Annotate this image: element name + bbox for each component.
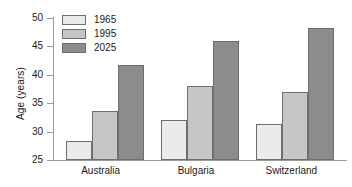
x-axis-line bbox=[53, 160, 347, 161]
bar-australia-2025 bbox=[118, 65, 144, 160]
x-label-switzerland: Switzerland bbox=[244, 165, 339, 177]
legend-item-1995: 1995 bbox=[62, 28, 116, 40]
legend-label-1965: 1965 bbox=[94, 15, 116, 25]
bar-bulgaria-2025 bbox=[213, 41, 239, 160]
legend-swatch-1995 bbox=[62, 29, 86, 39]
bar-australia-1995 bbox=[92, 111, 118, 160]
legend-label-1995: 1995 bbox=[94, 29, 116, 39]
bar-bulgaria-1965 bbox=[161, 120, 187, 160]
chart-legend: 196519952025 bbox=[62, 14, 116, 56]
legend-swatch-2025 bbox=[62, 43, 86, 53]
bar-switzerland-1995 bbox=[282, 92, 308, 160]
x-label-australia: Australia bbox=[53, 165, 148, 177]
y-tick-label: 25 bbox=[17, 155, 43, 165]
y-tick-label: 45 bbox=[17, 41, 43, 51]
bar-bulgaria-1995 bbox=[187, 86, 213, 160]
y-tick-mark bbox=[47, 160, 53, 161]
legend-item-2025: 2025 bbox=[62, 42, 116, 54]
bar-chart: Age (years) 253035404550 AustraliaBulgar… bbox=[0, 0, 352, 187]
legend-swatch-1965 bbox=[62, 15, 86, 25]
y-tick-label: 40 bbox=[17, 70, 43, 80]
bar-switzerland-2025 bbox=[308, 28, 334, 160]
x-label-bulgaria: Bulgaria bbox=[148, 165, 243, 177]
y-tick-label: 35 bbox=[17, 98, 43, 108]
y-tick-label: 30 bbox=[17, 127, 43, 137]
bar-australia-1965 bbox=[66, 141, 92, 160]
y-tick-label: 50 bbox=[17, 13, 43, 23]
legend-label-2025: 2025 bbox=[94, 43, 116, 53]
bar-switzerland-1965 bbox=[256, 124, 282, 160]
legend-item-1965: 1965 bbox=[62, 14, 116, 26]
